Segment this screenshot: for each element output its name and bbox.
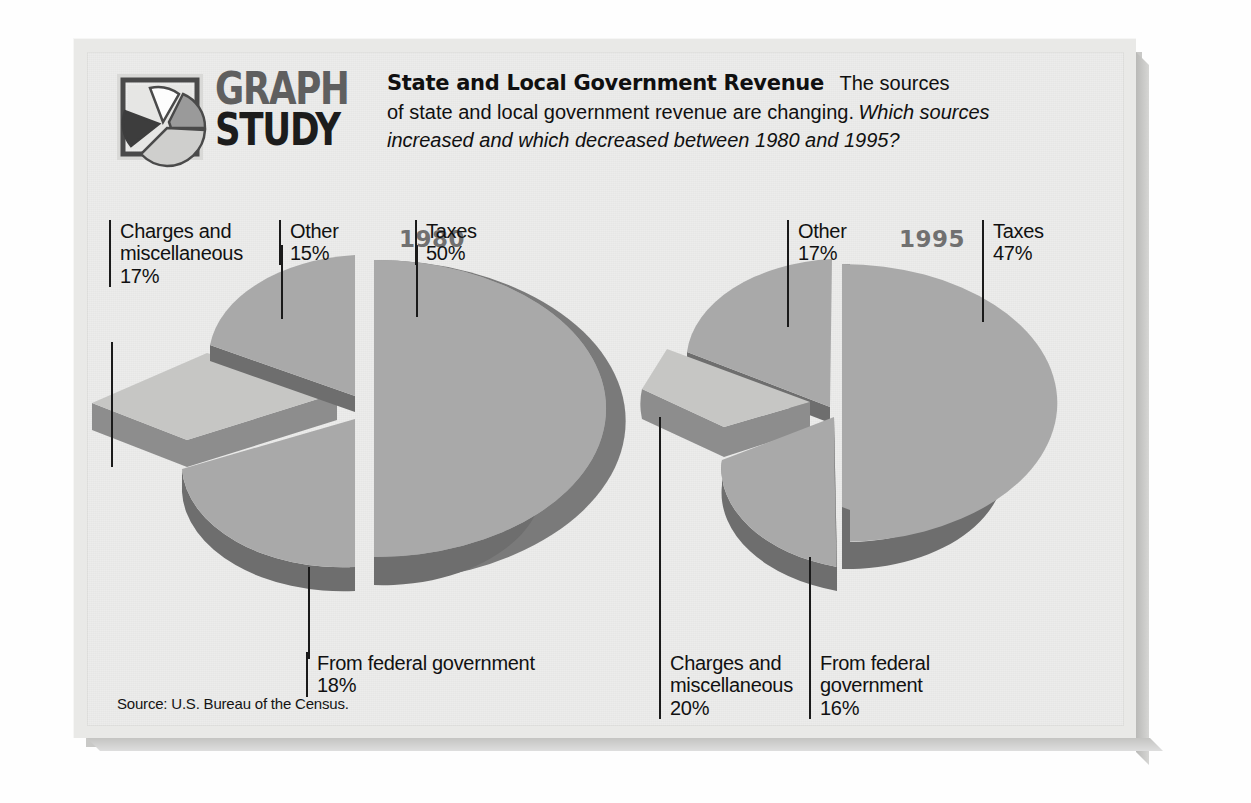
label-1980-federal: From federal government 18% bbox=[306, 652, 535, 697]
beveled-frame: GRAPH STUDY State and Local Government R… bbox=[73, 38, 1136, 738]
slice-1995-taxes bbox=[842, 264, 1057, 569]
logo-word-study: STUDY bbox=[215, 109, 391, 150]
figure-canvas: GRAPH STUDY State and Local Government R… bbox=[87, 52, 1124, 726]
headline-line-1: State and Local Government Revenue The s… bbox=[387, 70, 1087, 97]
label-1980-other: Other 15% bbox=[279, 220, 339, 265]
label-1995-taxes: Taxes 47% bbox=[982, 220, 1044, 265]
graph-study-logo: GRAPH STUDY bbox=[117, 72, 407, 177]
page-title: State and Local Government Revenue bbox=[387, 71, 824, 95]
frame-bevel-bottom bbox=[87, 738, 1163, 751]
headline-question-start: Which sources bbox=[858, 101, 989, 123]
label-1995-charges: Charges and miscellaneous 20% bbox=[659, 652, 793, 719]
headline-body-start: The sources bbox=[828, 72, 949, 94]
headline-question-rest: increased and which decreased between 19… bbox=[387, 129, 900, 151]
pie-chart-1995 bbox=[642, 167, 1142, 647]
label-1995-other: Other 17% bbox=[787, 220, 847, 265]
headline-block: State and Local Government Revenue The s… bbox=[387, 70, 1087, 155]
logo-wordmark: GRAPH STUDY bbox=[215, 68, 415, 151]
label-1980-taxes: Taxes 50% bbox=[415, 220, 477, 265]
source-note: Source: U.S. Bureau of the Census. bbox=[117, 695, 349, 712]
headline-body-rest: of state and local government revenue ar… bbox=[387, 101, 854, 123]
slice-1980-taxes bbox=[374, 260, 626, 585]
headline-line-2: of state and local government revenue ar… bbox=[387, 99, 1087, 125]
headline-line-3: increased and which decreased between 19… bbox=[387, 127, 1087, 153]
graph-study-figure: GRAPH STUDY State and Local Government R… bbox=[0, 0, 1251, 803]
label-1995-federal: From federal government 16% bbox=[809, 652, 930, 719]
pie-chart-icon bbox=[117, 74, 217, 174]
year-label-1995: 1995 bbox=[899, 226, 965, 252]
label-1980-charges: Charges and miscellaneous 17% bbox=[109, 220, 243, 287]
